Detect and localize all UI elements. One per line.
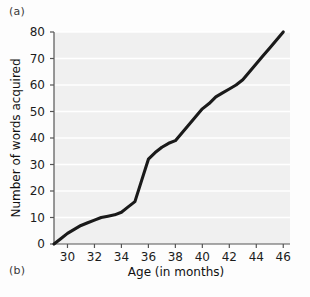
y-axis-title: Number of words acquired <box>9 58 23 217</box>
x-axis-tick-label: 40 <box>195 250 210 264</box>
panel-label-b: (b) <box>9 264 25 277</box>
y-axis-tick-label: 0 <box>37 237 45 251</box>
plot-area: 01020304050607080 303234363840424446 Num… <box>9 25 291 279</box>
x-axis-tick-label: 46 <box>276 250 291 264</box>
y-axis-tick-label: 80 <box>30 25 45 39</box>
x-axis-tick-label: 44 <box>249 250 264 264</box>
y-axis-tick-label: 70 <box>30 52 45 66</box>
x-axis-tick-label: 34 <box>114 250 129 264</box>
x-axis-tick-label: 42 <box>222 250 237 264</box>
y-axis-tick-labels: 01020304050607080 <box>30 25 45 251</box>
x-axis-tick-label: 36 <box>141 250 156 264</box>
y-axis-tick-label: 10 <box>30 211 45 225</box>
y-axis-tick-label: 30 <box>30 158 45 172</box>
y-axis-tick-label: 20 <box>30 184 45 198</box>
line-chart: 01020304050607080 303234363840424446 Num… <box>0 0 310 297</box>
x-axis-tick-label: 38 <box>168 250 183 264</box>
y-axis-tick-label: 60 <box>30 78 45 92</box>
y-axis-tick-label: 40 <box>30 131 45 145</box>
y-axis-tick-label: 50 <box>30 105 45 119</box>
x-axis-ticks <box>67 244 283 248</box>
x-axis-tick-labels: 303234363840424446 <box>60 250 291 264</box>
figure-container: (a) 01020304050607080 303234363840424446… <box>0 0 310 297</box>
x-axis-tick-label: 32 <box>87 250 102 264</box>
x-axis-title: Age (in months) <box>128 265 224 279</box>
x-axis-tick-label: 30 <box>60 250 75 264</box>
